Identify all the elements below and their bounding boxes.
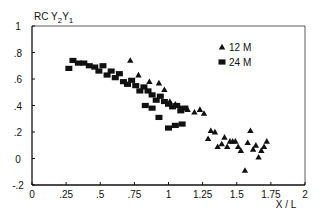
y-tick-label: .6 — [14, 74, 23, 85]
legend-triangle-icon — [219, 44, 225, 50]
square-marker — [128, 78, 135, 83]
x-tick-label: .75 — [127, 189, 141, 200]
triangle-marker — [244, 139, 250, 145]
square-marker — [165, 125, 172, 130]
triangle-marker — [127, 57, 133, 63]
axis-ticks: 0.25.5.7511.251.51.7521.8.6.4.20-.2 — [12, 21, 308, 200]
y-tick-label: 0 — [15, 154, 21, 165]
triangle-marker — [264, 138, 270, 144]
triangle-marker — [146, 78, 152, 84]
triangle-marker — [197, 106, 203, 112]
square-marker — [108, 68, 115, 73]
x-tick-label: 1.25 — [193, 189, 213, 200]
square-marker — [181, 106, 188, 111]
square-marker — [95, 68, 102, 73]
x-tick-label: 1.5 — [230, 189, 244, 200]
triangle-marker — [161, 86, 167, 92]
legend-square-icon — [219, 59, 226, 64]
y-tick-label: .8 — [14, 48, 23, 59]
square-marker — [149, 106, 156, 111]
x-tick-label: 0 — [29, 189, 35, 200]
square-marker — [149, 92, 156, 97]
square-marker — [179, 121, 186, 126]
square-marker — [172, 123, 179, 128]
square-marker — [116, 71, 123, 76]
x-tick-label: .5 — [96, 189, 105, 200]
data-points — [65, 57, 270, 173]
triangle-marker — [156, 80, 162, 86]
triangle-marker — [221, 134, 227, 140]
legend-label: 12 M — [229, 42, 251, 53]
series-24m — [65, 58, 188, 131]
x-tick-label: 1 — [166, 189, 172, 200]
y-tick-label: -.2 — [12, 180, 24, 191]
y-tick-label: .4 — [14, 101, 23, 112]
y-tick-label: .2 — [14, 127, 23, 138]
triangle-marker — [261, 143, 267, 149]
square-marker — [65, 66, 72, 71]
triangle-marker — [242, 167, 248, 173]
square-marker — [173, 103, 180, 108]
square-marker — [99, 63, 106, 68]
y-axis-title-main: RC — [34, 11, 51, 22]
series-12m — [127, 57, 270, 173]
x-axis-title: X / L — [276, 199, 297, 210]
triangle-marker — [235, 143, 241, 149]
triangle-marker — [253, 142, 259, 148]
square-marker — [157, 94, 164, 99]
triangle-marker — [224, 143, 230, 149]
y-tick-label: 1 — [15, 21, 21, 32]
triangle-marker — [191, 109, 197, 115]
x-tick-label: 2 — [302, 189, 308, 200]
triangle-marker — [255, 154, 261, 160]
square-marker — [132, 83, 139, 88]
legend: 12 M24 M — [219, 42, 252, 68]
y-axis-title: RC Y2Y1 — [34, 11, 74, 25]
svg-text:RC Y2Y1: RC Y2Y1 — [34, 11, 74, 25]
triangle-marker — [247, 127, 253, 133]
triangle-marker — [205, 135, 211, 141]
triangle-marker — [135, 72, 141, 78]
x-tick-label: .25 — [59, 189, 73, 200]
scatter-chart: 0.25.5.7511.251.51.7521.8.6.4.20-.2 RC Y… — [0, 0, 320, 221]
square-marker — [142, 103, 149, 108]
legend-label: 24 M — [229, 57, 251, 68]
square-marker — [155, 115, 162, 120]
triangle-marker — [219, 141, 225, 147]
